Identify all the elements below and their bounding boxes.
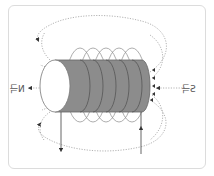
south-pole-label: S극 <box>182 82 196 95</box>
core-face <box>40 60 70 112</box>
north-pole-label: N극 <box>10 82 25 95</box>
wires <box>61 112 141 154</box>
